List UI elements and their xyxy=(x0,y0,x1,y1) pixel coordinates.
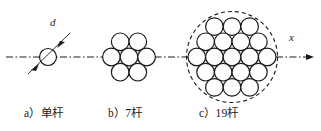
rod-circle xyxy=(232,33,250,51)
rod-circle xyxy=(223,18,241,36)
rod-circle xyxy=(129,33,147,51)
rod-circle xyxy=(206,18,224,36)
diameter-arrow-head-lower xyxy=(31,64,39,71)
rod-circle xyxy=(40,49,57,66)
rod-circle xyxy=(250,33,268,51)
rod-circle xyxy=(214,63,232,81)
diameter-label: d xyxy=(50,16,56,28)
group-a-single-rod xyxy=(28,33,70,74)
rod-circle xyxy=(103,48,121,66)
rod-circle xyxy=(258,48,276,66)
rod-circle xyxy=(223,48,241,66)
rod-circle xyxy=(241,79,259,97)
rod-circle xyxy=(241,18,259,36)
rod-circle xyxy=(111,33,129,51)
rod-circle xyxy=(197,63,215,81)
caption-single-rod: a）单杆 xyxy=(24,104,63,120)
bundled-conductor-figure: d x a）单杆 b）7杆 c）19杆 xyxy=(0,0,321,131)
rod-circle xyxy=(129,63,147,81)
rod-circle xyxy=(111,63,129,81)
rod-circle xyxy=(206,79,224,97)
caption-nineteen-rod: c）19杆 xyxy=(199,104,239,120)
rod-circle xyxy=(138,48,156,66)
rod-circle xyxy=(120,48,138,66)
rod-circle xyxy=(188,48,206,66)
rod-circle xyxy=(241,48,259,66)
caption-seven-rod: b）7杆 xyxy=(108,104,142,120)
rod-circle xyxy=(232,63,250,81)
rod-circle xyxy=(250,63,268,81)
rod-circle xyxy=(197,33,215,51)
axis-label-x: x xyxy=(289,31,294,43)
axis-arrow-head xyxy=(306,54,314,60)
rod-circle xyxy=(214,33,232,51)
rod-circle xyxy=(206,48,224,66)
rod-circle xyxy=(223,79,241,97)
group-b-seven-rods xyxy=(103,33,156,81)
group-c-nineteen-rods xyxy=(187,12,278,103)
